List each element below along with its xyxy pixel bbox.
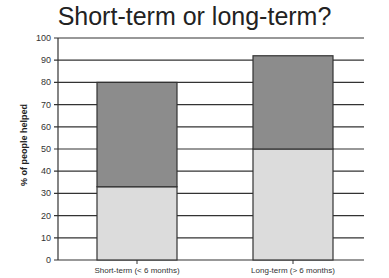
y-tick-label: 0: [46, 255, 51, 265]
y-tick-label: 50: [41, 144, 51, 154]
bar-segment: [253, 56, 333, 149]
x-category-label: Short-term (< 6 months): [94, 266, 179, 275]
x-category-label: Long-term (> 6 months): [251, 266, 335, 275]
y-tick-label: 70: [41, 100, 51, 110]
y-tick-label: 20: [41, 211, 51, 221]
y-tick-label: 80: [41, 77, 51, 87]
y-tick-label: 60: [41, 122, 51, 132]
bar-segment: [97, 187, 177, 260]
bar-segment: [97, 82, 177, 186]
y-tick-label: 40: [41, 166, 51, 176]
y-tick-label: 100: [36, 33, 51, 43]
y-tick-label: 10: [41, 233, 51, 243]
y-tick-label: 90: [41, 55, 51, 65]
bar-segment: [253, 149, 333, 260]
y-tick-label: 30: [41, 188, 51, 198]
stacked-bar-chart: 0102030405060708090100Short-term (< 6 mo…: [0, 0, 389, 278]
